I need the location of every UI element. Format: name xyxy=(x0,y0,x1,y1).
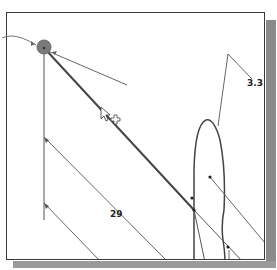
extension-line-lower[interactable] xyxy=(44,203,101,262)
sketch-canvas[interactable] xyxy=(0,0,277,270)
node-center-point xyxy=(43,47,46,50)
dimension-label-29[interactable]: 29 xyxy=(110,210,123,219)
point-marker[interactable] xyxy=(190,196,193,199)
ellipse-profile[interactable] xyxy=(194,120,225,262)
arrowhead-icon xyxy=(44,137,49,143)
main-diagonal-extension[interactable] xyxy=(194,210,243,262)
dimension-line-29[interactable] xyxy=(44,137,168,262)
leader-line-3-3[interactable] xyxy=(218,54,252,126)
spline-curve[interactable] xyxy=(2,36,36,45)
point-marker[interactable] xyxy=(192,208,195,211)
main-diagonal-line[interactable] xyxy=(46,50,194,210)
taper-line[interactable] xyxy=(194,210,205,262)
point-marker[interactable] xyxy=(208,175,211,178)
point-marker[interactable] xyxy=(226,245,229,248)
dimension-label-3-3[interactable]: 3.3 xyxy=(247,79,263,88)
leader-line-upper[interactable] xyxy=(48,51,127,85)
inner-diagonal-line[interactable] xyxy=(210,177,265,243)
